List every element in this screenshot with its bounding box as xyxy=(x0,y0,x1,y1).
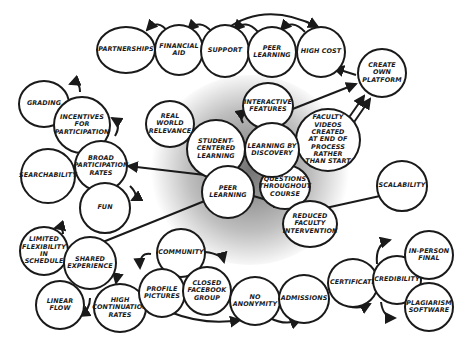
node-learning-by-discovery: LEARNING BY DISCOVERY xyxy=(244,122,300,178)
node-financial-aid: FINANCIAL AID xyxy=(154,24,204,76)
node-plagiarism-software: PLAGIARISM SOFTWARE xyxy=(404,282,454,332)
node-create-own-platform: CREATE OWN PLATFORM xyxy=(357,48,407,98)
node-limited-flexibility: LIMITED FLEXIBILITY IN SCHEDULE xyxy=(19,226,69,276)
node-scalability: SCALABILITY xyxy=(376,160,428,212)
node-partnerships: PARTNERSHIPS xyxy=(96,26,156,74)
node-high-cost: HIGH COST xyxy=(296,26,346,78)
node-peer-learning-center: PEER LEARNING xyxy=(201,165,255,219)
node-support: SUPPORT xyxy=(200,24,250,78)
node-peer-learning-top: PEER LEARNING xyxy=(247,26,297,78)
node-closed-facebook-group: CLOSED FACEBOOK GROUP xyxy=(182,266,232,316)
node-fun: FUN xyxy=(79,182,131,234)
node-reduced-faculty-intervention: REDUCED FACULTY INTERVENTION xyxy=(282,200,338,248)
node-searchability: SEARCHABILITY xyxy=(20,148,76,204)
node-linear-flow: LINEAR FLOW xyxy=(35,280,85,330)
node-admissions: ADMISSIONS xyxy=(278,274,330,324)
node-faculty-videos: FACULTY VIDEOS CREATED AT END OF PROCESS… xyxy=(295,108,361,172)
node-in-person-final: IN-PERSON FINAL xyxy=(404,230,454,280)
node-profile-pictures: PROFILE PICTURES xyxy=(138,268,186,318)
node-shared-experience: SHARED EXPERIENCE xyxy=(63,236,117,290)
node-no-anonymity: NO ANONYMITY xyxy=(229,276,281,326)
concept-map-canvas: PARTNERSHIPS FINANCIAL AID SUPPORT PEER … xyxy=(0,0,459,346)
